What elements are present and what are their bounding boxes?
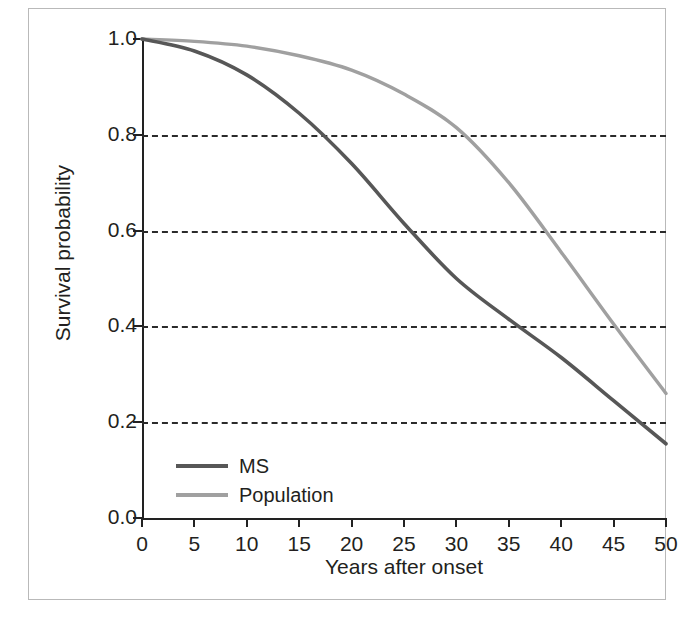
x-tick-mark (508, 518, 510, 527)
y-tick-label: 1.0 (108, 26, 137, 50)
legend-item-population: Population (176, 480, 334, 509)
x-axis-title: Years after onset (142, 555, 666, 579)
survival-curve-figure: Survival probability 0.00.20.40.60.81.0 … (0, 0, 685, 625)
x-tick-mark (193, 518, 195, 527)
plot-area: 0.00.20.40.60.81.0 05101520253035404550 … (142, 39, 666, 518)
x-tick-mark (351, 518, 353, 527)
y-tick-label: 0.4 (108, 313, 137, 337)
x-tick-label: 50 (654, 532, 677, 556)
x-tick-label: 35 (497, 532, 520, 556)
x-tick-label: 10 (235, 532, 258, 556)
y-tick-label: 0.8 (108, 122, 137, 146)
y-tick-label: 0.6 (108, 218, 137, 242)
x-tick-mark (455, 518, 457, 527)
figure-frame: Survival probability 0.00.20.40.60.81.0 … (28, 8, 666, 600)
legend: MS Population (176, 451, 334, 509)
x-tick-label: 25 (392, 532, 415, 556)
x-tick-label: 20 (340, 532, 363, 556)
x-tick-label: 40 (550, 532, 573, 556)
y-axis-title: Survival probability (51, 0, 75, 165)
ms-curve (142, 39, 666, 444)
x-tick-label: 30 (445, 532, 468, 556)
curves-group (142, 39, 666, 518)
x-tick-mark (560, 518, 562, 527)
x-tick-label: 5 (189, 532, 201, 556)
legend-label-ms: MS (239, 456, 269, 476)
x-tick-mark (613, 518, 615, 527)
y-tick-label: 0.0 (108, 505, 137, 529)
y-axis-title-text: Survival probability (51, 165, 75, 341)
x-tick-label: 15 (288, 532, 311, 556)
population-curve (142, 39, 666, 393)
x-tick-mark (141, 518, 143, 527)
x-tick-label: 45 (602, 532, 625, 556)
legend-swatch-ms (176, 464, 228, 468)
legend-item-ms: MS (176, 451, 334, 480)
x-tick-mark (403, 518, 405, 527)
x-tick-mark (665, 518, 667, 527)
x-tick-mark (298, 518, 300, 527)
x-tick-mark (246, 518, 248, 527)
legend-swatch-population (176, 493, 228, 497)
y-tick-label: 0.2 (108, 409, 137, 433)
x-tick-label: 0 (136, 532, 148, 556)
legend-label-population: Population (239, 485, 334, 505)
